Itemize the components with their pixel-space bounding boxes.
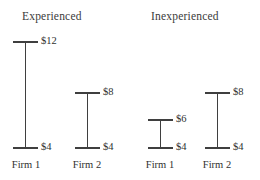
- range-bar-high-label: $12: [41, 36, 57, 47]
- range-bar-stem: [160, 119, 162, 148]
- price-range-figure: Experienced Inexperienced $12 $4 Firm 1 …: [0, 0, 260, 180]
- category-label-firm1-experienced: Firm 1: [0, 160, 52, 171]
- range-bar-bottom-cap: [148, 147, 173, 149]
- range-bar-low-label: $4: [176, 142, 187, 153]
- range-bar-stem: [217, 92, 219, 148]
- range-bar-top-cap: [13, 41, 38, 43]
- range-bar-experienced-firm2: $8 $4 Firm 2: [0, 0, 260, 180]
- range-bar-inexperienced-firm1: $6 $4 Firm 1: [0, 0, 260, 180]
- range-bar-top-cap: [148, 119, 173, 121]
- range-bar-stem: [87, 92, 89, 148]
- range-bar-low-label: $4: [103, 142, 114, 153]
- range-bar-low-label: $4: [233, 142, 244, 153]
- category-label-firm1-inexperienced: Firm 1: [134, 160, 186, 171]
- range-bar-experienced-firm1: $12 $4 Firm 1: [0, 0, 260, 180]
- range-bar-bottom-cap: [205, 147, 230, 149]
- group-title-experienced: Experienced: [22, 10, 82, 22]
- group-title-inexperienced: Inexperienced: [151, 10, 219, 22]
- range-bar-bottom-cap: [75, 147, 100, 149]
- range-bar-high-label: $8: [233, 87, 244, 98]
- range-bar-inexperienced-firm2: $8 $4 Firm 2: [0, 0, 260, 180]
- range-bar-top-cap: [205, 92, 230, 94]
- category-label-firm2-inexperienced: Firm 2: [191, 160, 243, 171]
- range-bar-top-cap: [75, 92, 100, 94]
- range-bar-low-label: $4: [41, 142, 52, 153]
- range-bar-stem: [25, 41, 27, 148]
- range-bar-bottom-cap: [13, 147, 38, 149]
- range-bar-high-label: $8: [103, 87, 114, 98]
- range-bar-high-label: $6: [176, 114, 187, 125]
- category-label-firm2-experienced: Firm 2: [61, 160, 113, 171]
